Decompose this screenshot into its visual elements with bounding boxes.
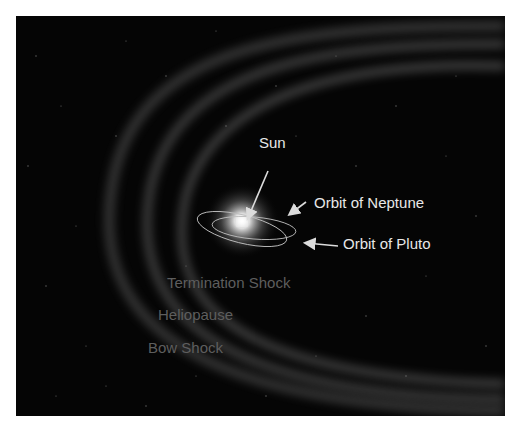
heliosphere-illustration xyxy=(16,16,505,416)
neptune-arrow xyxy=(290,202,306,214)
sun-label: Sun xyxy=(259,134,286,151)
termination-shock-label: Termination Shock xyxy=(167,274,290,291)
neptune-label: Orbit of Neptune xyxy=(314,194,424,211)
bow-shock-label: Bow Shock xyxy=(148,339,223,356)
heliosphere-diagram: Sun Orbit of Neptune Orbit of Pluto Term… xyxy=(16,16,505,416)
heliopause-label: Heliopause xyxy=(158,306,233,323)
pluto-arrow xyxy=(306,243,338,246)
sun-icon xyxy=(237,216,247,226)
pluto-label: Orbit of Pluto xyxy=(343,235,431,252)
